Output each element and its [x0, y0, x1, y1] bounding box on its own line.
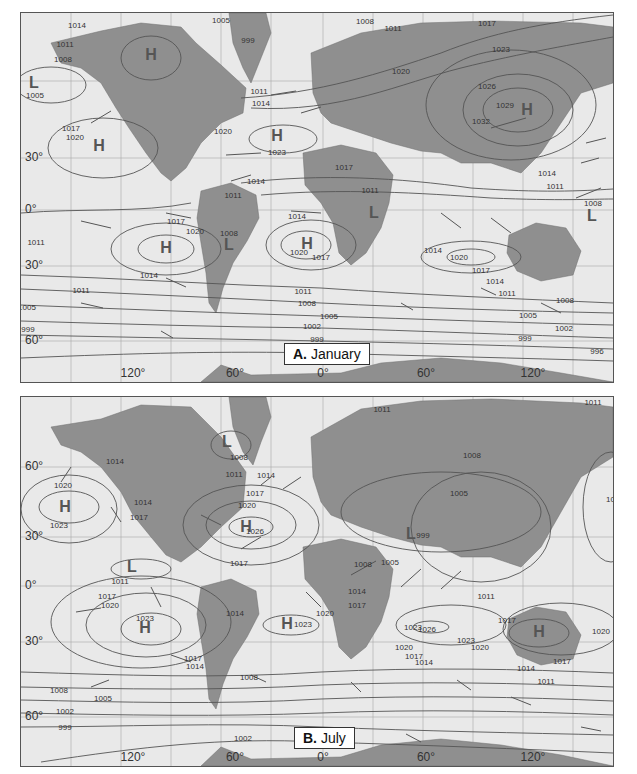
isobar-value-label: 1005	[519, 311, 537, 320]
map-graphic-july	[21, 397, 613, 766]
eurasia	[311, 399, 613, 567]
high-pressure-center: H	[533, 623, 545, 641]
latitude-label: 60°	[25, 333, 43, 347]
low-pressure-center: L	[29, 74, 39, 92]
isobar-value-label: 1005	[320, 312, 338, 321]
isobar-value-label: 1026	[478, 82, 496, 91]
isobar-value-label: 1023	[294, 620, 312, 629]
antarctica	[201, 739, 613, 766]
isobar-value-label: 1014	[257, 471, 275, 480]
isobar-value-label: 1017	[167, 217, 185, 226]
isobar-value-label: 1008	[556, 296, 574, 305]
caption-title: July	[321, 730, 346, 746]
isobar-value-label: 1023	[136, 614, 154, 623]
isobar-value-label: 1014	[247, 177, 265, 186]
isobar-value-label: 1011	[56, 40, 73, 49]
isobar-value-label: 1014	[424, 246, 442, 255]
latitude-label: 0°	[25, 578, 36, 592]
map-panel-july: 60° 30° 0° 30° 60° 120° 60° 0° 60° 120° …	[20, 396, 614, 767]
isobar-value-label: 1005	[450, 489, 468, 498]
latitude-label: 60°	[25, 709, 43, 723]
high-pressure-center: H	[271, 127, 283, 145]
low-pressure-center: L	[222, 433, 232, 451]
isobar-value-label: 1008	[230, 453, 248, 462]
longitude-label: 60°	[226, 366, 244, 380]
isobar-value-label: 1008	[240, 673, 258, 682]
isobar-value-label: 1008	[354, 560, 372, 569]
landmasses	[51, 13, 613, 382]
north-america	[51, 405, 246, 562]
longitude-label: 60°	[226, 750, 244, 764]
greenland	[229, 13, 271, 83]
latitude-label: 0°	[25, 202, 36, 216]
isobar-value-label: 1020	[450, 253, 468, 262]
longitude-label: 120°	[521, 750, 546, 764]
isobar-value-label: 1005	[381, 558, 399, 567]
isobar-value-label: 1020	[316, 609, 334, 618]
isobar-value-label: 1014	[106, 457, 124, 466]
low-pressure-center: L	[587, 207, 597, 225]
isobar-value-label: 1008	[50, 686, 68, 695]
isobar-value-label: 996	[590, 347, 603, 356]
isobar-value-label: 1005	[212, 16, 230, 25]
isobar-value-label: 1011	[225, 470, 242, 479]
isobar-value-label: 1008	[584, 199, 602, 208]
isobar-value-label: 1023	[50, 521, 68, 530]
isobar-value-label: 1011	[537, 677, 554, 686]
latitude-label: 30°	[25, 529, 43, 543]
map-panel-january: 30° 0° 30° 60° 120° 60° 0° 60° 120° HLHH…	[20, 12, 614, 383]
isobar-value-label: 1014	[226, 609, 244, 618]
isobar-value-label: 1020	[101, 601, 119, 610]
isobar-value-label: 1014	[348, 587, 366, 596]
isobar-value-label: 1008	[54, 55, 72, 64]
isobar-value-label: 1017	[62, 124, 80, 133]
isobar-value-label: 1005	[26, 91, 44, 100]
isobar-value-label: 1032	[472, 117, 490, 126]
isobar-value-label: 1014	[186, 662, 204, 671]
panel-caption-july: B. July	[294, 727, 355, 749]
africa	[303, 539, 393, 659]
isobar-value-label: 1011	[111, 577, 128, 586]
isobar-value-label: 1017	[246, 489, 264, 498]
isobar-value-label: 1026	[246, 527, 264, 536]
isobar-value-label: 1011	[72, 286, 89, 295]
longitude-label: 60°	[417, 366, 435, 380]
latitude-label: 30°	[25, 258, 43, 272]
isobar-value-label: 1020	[290, 248, 308, 257]
high-pressure-center: H	[281, 615, 293, 633]
high-pressure-center: H	[93, 137, 105, 155]
high-pressure-center: H	[160, 239, 172, 257]
longitude-label: 60°	[417, 750, 435, 764]
isobar-value-label: 1020	[238, 501, 256, 510]
landmasses	[51, 397, 613, 766]
isobar-value-label: 999	[21, 325, 34, 334]
longitude-label: 0°	[317, 750, 328, 764]
isobar-value-label: 1014	[68, 21, 86, 30]
latitude-label: 60°	[25, 459, 43, 473]
isobar-value-label: 1002	[234, 734, 252, 743]
isobar-value-label: 1014	[538, 169, 556, 178]
isobar-value-label: 1023	[492, 45, 510, 54]
isobar-value-label: 1017	[98, 592, 116, 601]
isobar-value-label: 1017	[498, 616, 516, 625]
caption-letter: A.	[293, 346, 307, 362]
isobar-value-label: 999	[241, 36, 254, 45]
isobar-value-label: 1020	[214, 127, 232, 136]
isobar-value-label: 1020	[395, 643, 413, 652]
longitude-label: 120°	[521, 366, 546, 380]
isobar-value-label: 1014	[486, 277, 504, 286]
isobar-value-label: 1011	[250, 87, 267, 96]
isobar-value-label: 1002	[303, 322, 321, 331]
high-pressure-center: H	[145, 46, 157, 64]
isobar-value-label: 1017	[553, 657, 571, 666]
isobar-value-label: 1017	[230, 559, 248, 568]
isobar-value-label: 1026	[418, 625, 436, 634]
isobar-value-label: 1017	[606, 495, 614, 504]
caption-title: January	[311, 346, 361, 362]
isobar-value-label: 1017	[312, 253, 330, 262]
isobar-value-label: 1020	[66, 133, 84, 142]
isobar-value-label: 1008	[463, 451, 481, 460]
isobar-value-label: 999	[416, 531, 429, 540]
longitude-label: 120°	[121, 750, 146, 764]
isobar-value-label: 1011	[373, 405, 390, 414]
